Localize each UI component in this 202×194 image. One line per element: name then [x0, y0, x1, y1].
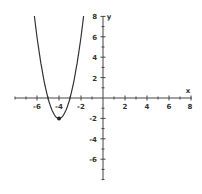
y-tick-label: 2: [92, 75, 97, 83]
x-axis-label: x: [186, 87, 191, 95]
y-tick-label: -6: [89, 156, 97, 164]
x-tick-label: 8: [188, 103, 193, 111]
x-tick-label: 6: [167, 103, 172, 111]
y-tick-label: 8: [92, 13, 97, 21]
y-tick-label: -4: [89, 136, 97, 144]
x-tick-label: 2: [123, 103, 128, 111]
y-tick-label: 4: [92, 54, 97, 62]
x-tick-labels: -6 -4 -2 2 4 6 8: [33, 103, 192, 111]
y-tick-label: -2: [89, 115, 97, 123]
vertex-point: [57, 116, 61, 120]
x-tick-label: 4: [145, 103, 150, 111]
x-tick-label: -4: [55, 103, 63, 111]
y-tick-label: 6: [92, 34, 97, 42]
x-tick-label: -2: [77, 103, 85, 111]
y-axis-label: y: [107, 13, 112, 21]
parabola-chart: -6 -4 -2 2 4 6 8 8 6 4 2 -2 -4 -6 x y: [0, 0, 202, 194]
y-tick-labels: 8 6 4 2 -2 -4 -6: [89, 13, 97, 164]
x-tick-label: -6: [33, 103, 41, 111]
